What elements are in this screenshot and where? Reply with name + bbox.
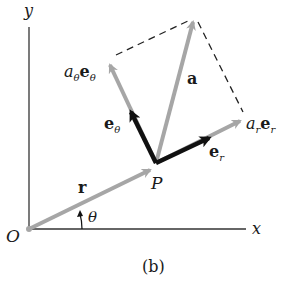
a-vector-label: a xyxy=(187,69,197,88)
figure-caption: (b) xyxy=(142,257,165,276)
e-theta-label: eθ xyxy=(104,114,120,135)
acceleration-vector-a xyxy=(156,22,193,163)
unit-e-theta: e xyxy=(80,62,90,81)
r-vector-label: r xyxy=(78,178,87,197)
dashed-line-right xyxy=(198,22,243,112)
e-r-unit: e xyxy=(209,142,219,161)
transverse-component-label: aθeθ xyxy=(64,62,96,83)
e-theta-sub: θ xyxy=(114,124,120,135)
e-theta-unit: e xyxy=(104,114,114,133)
dashed-line-top xyxy=(116,20,190,55)
unit-vector-e-r xyxy=(156,138,209,163)
point-p-label: P xyxy=(150,173,163,193)
unit-vector-e-theta xyxy=(131,112,156,163)
unit-sub-theta: θ xyxy=(90,72,96,83)
theta-label: θ xyxy=(88,208,97,226)
coef-a-theta: a xyxy=(64,62,74,81)
origin-label: O xyxy=(6,226,20,246)
y-axis-label: y xyxy=(23,1,34,20)
x-axis-label: x xyxy=(252,219,261,238)
unit-e-r: e xyxy=(260,114,270,133)
unit-sub-r: r xyxy=(271,124,277,135)
coef-a-r: a xyxy=(246,114,256,133)
e-r-label: er xyxy=(209,142,225,163)
radial-component-label: arer xyxy=(246,114,277,135)
e-r-sub: r xyxy=(219,152,225,163)
origin-point xyxy=(26,226,32,232)
polar-acceleration-diagram: y x O P θ r a aθeθ arer eθ er (b) xyxy=(0,0,284,282)
theta-arrowhead xyxy=(77,210,83,217)
